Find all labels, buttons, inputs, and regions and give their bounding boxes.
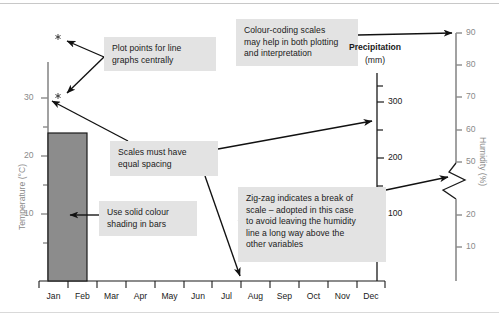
precipitation-tick-100: 100 (388, 208, 402, 218)
callout-zigzag-break: Zig-zag indicates a break of scale – ado… (238, 187, 386, 262)
asterisk-lower (55, 93, 60, 99)
temperature-axis-title: Temperature (°C) (17, 164, 27, 230)
temperature-axis (41, 62, 48, 281)
arrow-equal-spacing-xaxis (205, 176, 240, 276)
zigzag-break-icon (443, 163, 465, 199)
plot-point-markers (55, 34, 60, 99)
humidity-axis (443, 33, 465, 281)
x-axis-ticks (39, 281, 385, 288)
month-label-sep: Sep (270, 291, 299, 301)
month-label-jun: Jun (184, 291, 212, 301)
month-label-nov: Nov (328, 291, 357, 301)
arrow-equal-spacing-precipitation (218, 121, 372, 149)
precipitation-axis-title: Precipitation (320, 42, 430, 53)
precipitation-tick-200: 200 (388, 152, 402, 162)
humidity-axis-ticks (456, 33, 462, 247)
x-axis (39, 281, 385, 288)
precipitation-tick-300: 300 (388, 96, 402, 106)
month-label-jul: Jul (212, 291, 241, 301)
precipitation-axis-unit: (mm) (320, 55, 430, 66)
arrow-colour-coding-humidity (358, 33, 452, 35)
humidity-tick-60: 60 (466, 124, 476, 134)
month-label-mar: Mar (97, 291, 126, 301)
temperature-tick-30: 30 (24, 92, 34, 102)
month-label-aug: Aug (241, 291, 270, 301)
callout-plot-points: Plot points for line graphs centrally (104, 37, 216, 71)
humidity-tick-50: 50 (466, 156, 476, 166)
asterisk-upper (55, 34, 60, 40)
arrow-plot-points-upper (67, 41, 104, 57)
climate-graph-figure: Plot points for line graphs centrally Co… (0, 0, 499, 315)
month-label-jan: Jan (39, 291, 68, 301)
bar-jan (48, 133, 87, 281)
callout-solid-shading: Use solid colour shading in bars (99, 201, 197, 236)
humidity-tick-90: 90 (466, 27, 476, 37)
temperature-axis-ticks (41, 98, 48, 243)
humidity-tick-80: 80 (466, 59, 476, 69)
humidity-tick-20: 20 (466, 209, 476, 219)
humidity-axis-title: Humidity (%) (478, 137, 488, 186)
humidity-tick-10: 10 (466, 241, 476, 251)
month-label-may: May (155, 291, 184, 301)
callout-equal-spacing: Scales must have equal spacing (110, 141, 218, 176)
month-label-dec: Dec (357, 291, 385, 301)
temperature-tick-20: 20 (24, 150, 34, 160)
month-label-oct: Oct (299, 291, 328, 301)
temperature-tick-10: 10 (24, 208, 34, 218)
month-label-apr: Apr (126, 291, 155, 301)
humidity-tick-70: 70 (466, 91, 476, 101)
month-label-feb: Feb (68, 291, 97, 301)
arrow-plot-points-lower (67, 57, 104, 93)
